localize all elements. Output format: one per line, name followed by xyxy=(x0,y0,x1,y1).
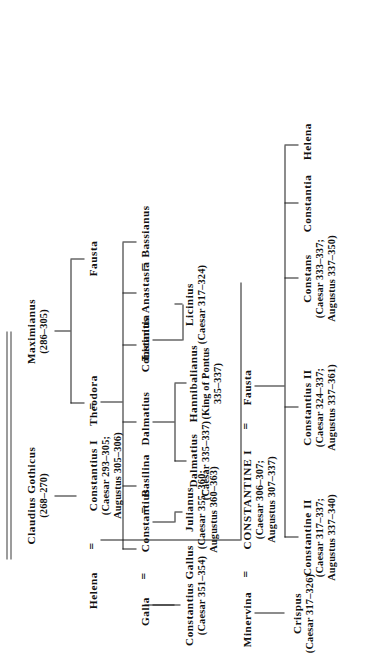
connector-licinius-caesar-drop xyxy=(174,303,182,304)
person-name: Licinius xyxy=(182,249,195,359)
connector-constantius-theodora-drop xyxy=(100,401,122,402)
connector-drop-constantius xyxy=(122,548,136,549)
person-dates: (Caesar 317–324) xyxy=(195,249,207,359)
person-dates-line2: Augustus 337–340) xyxy=(325,475,337,599)
node-helena-low: Helena xyxy=(300,111,313,171)
connector-claudius-drop xyxy=(54,495,76,496)
marriage-symbol-helena-constantius: = xyxy=(86,542,98,549)
person-name: Constantine II xyxy=(300,475,313,599)
connector-drop-licinius xyxy=(122,344,136,345)
person-name: Maximianus xyxy=(24,281,37,381)
node-constantine-ii: Constantine II (Caesar 317–337; Augustus… xyxy=(300,475,336,599)
marriage-symbol-minervina-constantine: = xyxy=(240,570,252,577)
rotated-page-wrapper: Claudius Gothicus (268–270) Maximianus (… xyxy=(0,0,388,653)
node-galla: Galla xyxy=(138,583,151,639)
node-claudius-gothicus: Claudius Gothicus (268–270) xyxy=(24,437,49,553)
connector-drop-anastasia xyxy=(122,292,136,293)
connector-drop-basilina xyxy=(122,485,136,486)
node-minervina: Minervina xyxy=(240,579,253,653)
connector-hannibalianus-drop xyxy=(174,382,186,383)
node-constantia-low: Constantia xyxy=(300,165,313,241)
connector-gallus-drop xyxy=(152,604,180,605)
connector-drop-dalmatius xyxy=(122,421,136,422)
node-constantine-i: CONSTANTINE I (Caesar 306–307; Augustus … xyxy=(240,433,276,565)
connector-drop-helena-low xyxy=(284,144,298,145)
person-dates-line2: 335–337) xyxy=(211,327,223,439)
node-helena: Helena xyxy=(86,555,99,625)
connector-drop-bassianus xyxy=(122,241,136,242)
marriage-symbol-constantine-fausta: = xyxy=(240,422,252,429)
person-name: Constantius II xyxy=(300,345,313,469)
connector-maximianus-bar xyxy=(70,259,71,403)
connector-minervina-drop xyxy=(254,612,284,613)
person-dates: (268–270) xyxy=(37,437,49,553)
connector-constantine-fausta-drop xyxy=(254,385,284,386)
person-dates-line2: Augustus 307–337) xyxy=(265,433,277,565)
connector-gen3-bar xyxy=(122,242,123,549)
genealogy-chart: Claudius Gothicus (268–270) Maximianus (… xyxy=(0,0,388,653)
connector-helena-line-drop xyxy=(100,539,240,540)
person-dates-line1: (Caesar 293–305; xyxy=(99,415,111,535)
node-licinius-caesar: Licinius (Caesar 317–324) xyxy=(182,249,207,359)
connector-drop-constantius-ii xyxy=(284,406,298,407)
node-maximianus: Maximianus (286–305) xyxy=(24,281,49,381)
connector-julianus-bar xyxy=(174,512,175,522)
connector-constantia-licinius-drop xyxy=(152,339,182,340)
person-dates-line1: (Caesar 324–337; xyxy=(313,345,325,469)
person-dates-line2: Augustus 305–306) xyxy=(111,415,123,535)
person-name: Claudius Gothicus xyxy=(24,437,37,553)
person-name: CONSTANTINE I xyxy=(240,433,253,565)
person-dates-line1: (Caesar 306–307; xyxy=(253,433,265,565)
person-dates-line1: (Caesar 317–337; xyxy=(313,475,325,599)
node-bassianus: Bassianus xyxy=(138,194,151,268)
connector-fausta-top-drop xyxy=(70,258,84,259)
connector-julianus-drop xyxy=(174,511,182,512)
connector-maximianus-drop xyxy=(54,330,70,331)
connector-drop-constantia-low xyxy=(284,202,298,203)
person-dates: (286–305) xyxy=(37,281,49,381)
node-fausta-top: Fausta xyxy=(86,229,99,287)
person-dates-line1: (Caesar 333–337; xyxy=(313,216,325,340)
node-dalmatius-top: Dalmatius xyxy=(138,380,151,456)
connector-theodora-drop xyxy=(70,402,84,403)
connector-drop-constantine-ii xyxy=(284,536,298,537)
connector-basilina-drop xyxy=(152,521,174,522)
connector-dalmatius-children-bar xyxy=(174,383,175,461)
page-edge-rule-outer xyxy=(6,331,7,559)
connector-constantine-children-bar xyxy=(284,145,285,537)
connector-dalmatius-drop xyxy=(152,421,174,422)
connector-drop-constans xyxy=(284,277,298,278)
node-theodora: Theodora xyxy=(86,365,99,435)
person-dates-line2: Augustus 337–361) xyxy=(325,345,337,469)
node-fausta-mid: Fausta xyxy=(240,357,253,417)
person-dates-line2: Augustus 337–350) xyxy=(325,216,337,340)
page-edge-rule-inner xyxy=(10,331,11,559)
node-constantius-ii: Constantius II (Caesar 324–337; Augustus… xyxy=(300,345,336,469)
